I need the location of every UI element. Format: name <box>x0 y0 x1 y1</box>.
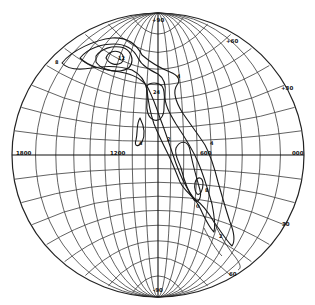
label-right-equator: 000 <box>292 150 304 156</box>
contour-label: 24 <box>153 89 160 95</box>
stereonet-diagram: +90 +60 +30 30 60 -90 1800 1200 600 000 … <box>0 0 315 305</box>
label-upper-right-2: +30 <box>281 85 293 91</box>
contour-third <box>96 47 132 71</box>
contour-label: 2 <box>219 233 223 239</box>
label-bottom: -90 <box>153 287 163 293</box>
contour-label: 0 <box>196 203 200 209</box>
label-center-equator: 1200 <box>110 150 125 156</box>
contour-label: 4 <box>177 73 181 79</box>
contour-label: 8 <box>55 59 59 65</box>
label-lower-right-1: 30 <box>282 221 290 227</box>
contour-label: 4 <box>210 140 214 146</box>
label-left-equator: 1800 <box>16 150 31 156</box>
contour-label: 8 <box>205 187 209 193</box>
contour-label: 12 <box>118 55 125 61</box>
stereonet-svg: +90 +60 +30 30 60 -90 1800 1200 600 000 … <box>0 0 315 305</box>
label-right-inner-equator: 600 <box>200 150 212 156</box>
contour-label: 4 <box>139 140 143 146</box>
label-lower-right-2: 60 <box>229 271 237 277</box>
label-upper-right-1: +60 <box>226 38 238 44</box>
contour-label: 2 <box>167 136 171 142</box>
label-top: +90 <box>152 17 164 23</box>
